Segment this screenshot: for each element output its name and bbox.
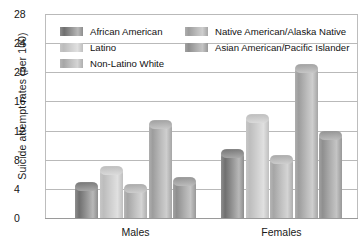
- y-axis-tick-label: 20: [14, 66, 40, 78]
- bar-cap: [246, 114, 269, 123]
- y-axis-tick-label: 4: [14, 183, 40, 195]
- legend-column-right: Native American/Alaska NativeAsian Ameri…: [185, 24, 357, 56]
- legend-column-left: African AmericanLatinoNon-Latino White: [60, 24, 180, 72]
- legend-swatch: [60, 43, 83, 52]
- legend-item: Latino: [60, 40, 180, 55]
- legend-label: Asian American/Pacific Islander: [215, 43, 349, 53]
- bar: [246, 115, 269, 218]
- legend-label: Latino: [90, 43, 116, 53]
- y-axis-tick-label: 8: [14, 154, 40, 166]
- legend-item: Non-Latino White: [60, 56, 180, 71]
- bar: [75, 183, 98, 218]
- y-axis-tick-label: 28: [14, 8, 40, 20]
- plot-right-edge: [357, 14, 358, 218]
- bar: [295, 65, 318, 218]
- legend-item: African American: [60, 24, 180, 39]
- legend-swatch: [60, 59, 83, 68]
- bar: [173, 178, 196, 218]
- y-axis-tick-label: 16: [14, 95, 40, 107]
- bar-chart: Suicide attempt rates (per 100) 04812162…: [0, 0, 363, 252]
- bar: [221, 150, 244, 218]
- plot-left-edge: [45, 14, 46, 218]
- bar-cap: [100, 166, 123, 175]
- legend-label: Non-Latino White: [90, 59, 164, 69]
- bar-cap: [295, 64, 318, 73]
- gridline: [45, 218, 358, 219]
- legend-item: Native American/Alaska Native: [185, 24, 357, 39]
- bar-cap: [173, 177, 196, 186]
- bar: [319, 132, 342, 218]
- legend-swatch: [185, 43, 208, 52]
- y-axis-tick-label: 12: [14, 125, 40, 137]
- legend-swatch: [60, 27, 83, 36]
- bar-cap: [221, 149, 244, 158]
- bar-cap: [75, 182, 98, 191]
- bar-cap: [124, 184, 147, 193]
- legend-label: African American: [90, 27, 163, 37]
- gridline: [45, 14, 358, 15]
- x-axis-category-label: Males: [91, 226, 181, 238]
- bar: [124, 185, 147, 218]
- bar-cap: [270, 155, 293, 164]
- y-axis-tick-label: 24: [14, 37, 40, 49]
- legend-item: Asian American/Pacific Islander: [185, 40, 357, 55]
- legend-swatch: [185, 27, 208, 36]
- bar: [270, 156, 293, 218]
- bar: [149, 121, 172, 218]
- y-axis-tick-label: 0: [14, 212, 40, 224]
- x-axis-category-label: Females: [237, 226, 327, 238]
- legend-label: Native American/Alaska Native: [215, 27, 346, 37]
- bar-cap: [149, 120, 172, 129]
- bar: [100, 167, 123, 218]
- bar-cap: [319, 131, 342, 140]
